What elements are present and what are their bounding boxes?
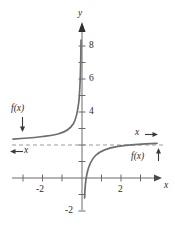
x-tick-label-minus-2: -2 xyxy=(36,185,44,195)
left-down-arrow-icon xyxy=(20,117,25,132)
annotation-right-x: x xyxy=(135,128,139,138)
annotation-lower-right-fx: f(x) xyxy=(131,152,144,162)
function-graph-figure: 8 6 4 -2 -2 2 y x f(x) x x f(x) xyxy=(0,0,175,231)
y-tick-label-6: 6 xyxy=(89,74,94,84)
right-arrow-icon xyxy=(145,132,158,137)
curve-left-branch xyxy=(13,40,81,139)
graph-canvas xyxy=(0,0,175,231)
x-tick-label-2: 2 xyxy=(118,185,123,195)
x-axis-label: x xyxy=(164,181,168,191)
y-tick-label-8: 8 xyxy=(89,41,94,51)
right-up-arrow-icon xyxy=(156,148,161,161)
left-arrow-icon xyxy=(10,149,23,154)
y-tick-label-minus-2: -2 xyxy=(65,206,73,216)
annotation-left-x: x xyxy=(24,146,28,156)
annotation-upper-left-fx: f(x) xyxy=(11,104,24,114)
y-tick-label-4: 4 xyxy=(89,107,94,117)
y-axis-label: y xyxy=(78,9,82,19)
y-axis xyxy=(78,22,85,210)
